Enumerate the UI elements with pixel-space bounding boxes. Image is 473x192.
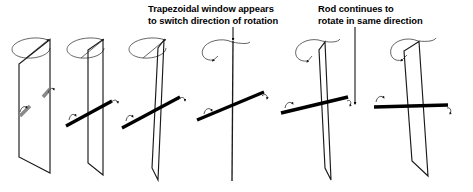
panel-3: [122, 38, 185, 180]
panel-5: [281, 39, 351, 180]
rod: [281, 97, 348, 113]
trapezoid-window: [19, 40, 50, 174]
trapezoid-window: [404, 42, 428, 177]
panel-1: [12, 38, 54, 173]
rotation-arrow-icon: [129, 38, 166, 58]
rod: [122, 97, 180, 128]
rod: [66, 101, 112, 126]
rotation-arrow-icon: [296, 39, 340, 62]
trapezoid-window: [232, 41, 233, 181]
rod: [374, 105, 448, 107]
diagram-artwork: [0, 0, 473, 192]
rotation-arrow-icon: [391, 38, 436, 61]
rod: [20, 89, 50, 116]
panel-2: [66, 38, 118, 175]
rotation-arrow-icon: [67, 38, 104, 58]
panel-4: [197, 40, 267, 181]
rod: [197, 92, 264, 120]
trapezoid-window: [319, 42, 331, 180]
figure-canvas: Trapezoidal window appears to switch dir…: [0, 0, 473, 192]
rotation-arrow-icon: [202, 40, 250, 61]
panel-6: [374, 38, 451, 176]
